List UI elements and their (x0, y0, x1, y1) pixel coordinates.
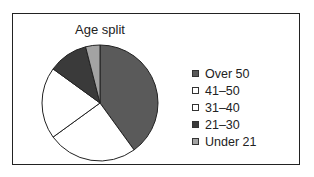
legend-item-21-30: 21–30 (192, 116, 256, 133)
legend-swatch (192, 104, 199, 111)
legend-swatch (192, 138, 199, 145)
legend-label: Under 21 (205, 135, 256, 149)
legend-item-under-21: Under 21 (192, 133, 256, 150)
pie-chart (0, 0, 314, 177)
legend-label: 31–40 (205, 101, 240, 115)
legend-label: Over 50 (205, 67, 249, 81)
legend-swatch (192, 87, 199, 94)
legend-item-over-50: Over 50 (192, 65, 256, 82)
legend-item-41-50: 41–50 (192, 82, 256, 99)
legend: Over 50 41–50 31–40 21–30 Under 21 (192, 65, 256, 150)
legend-label: 41–50 (205, 84, 240, 98)
legend-swatch (192, 121, 199, 128)
legend-swatch (192, 70, 199, 77)
legend-item-31-40: 31–40 (192, 99, 256, 116)
legend-label: 21–30 (205, 118, 240, 132)
